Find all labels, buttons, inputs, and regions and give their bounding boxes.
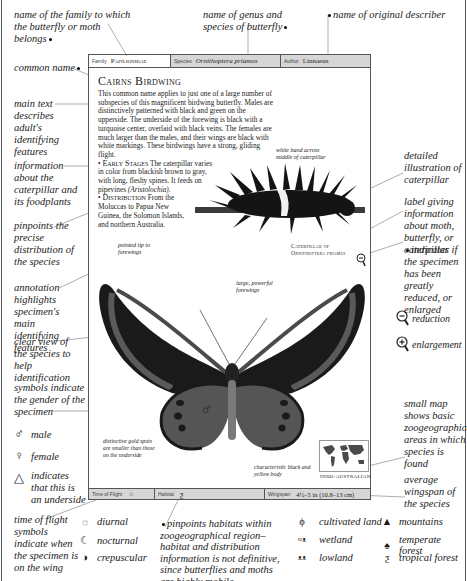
legend-wetland-label: wetland xyxy=(319,534,352,545)
moon-icon: ☾ xyxy=(78,534,92,546)
annotation-small-map-text: small map shows basic zoogeographical ar… xyxy=(404,398,467,469)
header-strip: Family Papilionidae Species Ornithoptera… xyxy=(88,54,371,68)
foodplant-name: (Aristolochia). xyxy=(128,185,171,194)
author-label: Author xyxy=(284,58,299,64)
main-body-text: This common name applies to just one of … xyxy=(98,89,273,159)
bullet-dot xyxy=(77,67,80,70)
early-stages-label: Early Stages xyxy=(102,159,148,168)
legend-mountains-label: mountains xyxy=(399,516,443,527)
male-icon: ♂ xyxy=(12,426,26,442)
bullet-dot xyxy=(406,249,409,252)
sun-icon: ☼ xyxy=(78,516,92,527)
sun-icon: ☼ xyxy=(128,490,134,498)
legend-male-label: male xyxy=(31,429,51,440)
map-region-label: Indo-Australian xyxy=(320,474,371,479)
annotation-distribution: pinpoints the precise distribution of th… xyxy=(14,220,82,268)
species-value: Ornithoptera priamus xyxy=(196,57,258,65)
legend-crepuscular-label: crepuscular xyxy=(97,552,147,563)
author-cell: Author Linnaeus xyxy=(281,55,370,67)
reduction-icon xyxy=(356,253,366,267)
annotation-detailed-illustration-text: detailed illustration of caterpillar xyxy=(404,150,461,185)
annotation-black-yellow-body: characteristic black and yellow body xyxy=(254,464,314,478)
legend-nocturnal-label: nocturnal xyxy=(97,535,138,546)
annotation-gold-spots: distinctive gold spots are smaller than … xyxy=(103,438,155,458)
enlargement-icon xyxy=(396,336,410,352)
wingspan-label: Wingspan xyxy=(268,491,290,497)
annotation-time-of-flight-text: time of flight symbols indicate when the… xyxy=(14,514,78,573)
family-value: Papilionidae xyxy=(111,57,147,65)
gender-symbol-male: ♂ xyxy=(202,404,211,415)
legend-wetland: ≈ᴥ wetland xyxy=(290,534,352,545)
annotation-scale-indicator-text: indicates if the specimen has been great… xyxy=(404,244,459,315)
legend-diurnal-label: diurnal xyxy=(97,516,128,527)
annotation-family: name of the family to which the butterfl… xyxy=(14,9,134,45)
legend-tropical-forest-label: tropical forest xyxy=(399,552,458,563)
lowland-icon: ᴥᴥ xyxy=(290,553,314,562)
legend-nocturnal: ☾ nocturnal xyxy=(78,534,138,546)
annotation-wingspan-text: average wingspan of the species xyxy=(404,474,455,509)
species-label: Species xyxy=(174,58,192,64)
footer-strip: Time of Flight ☼ Habitat ƺ Wingspan 4½–5… xyxy=(88,488,371,500)
annotation-describer-text: name of original describer xyxy=(333,9,445,20)
annotation-main-text: main text describes adult's identifying … xyxy=(14,98,74,158)
annotation-family-text: name of the family to which the butterfl… xyxy=(14,9,130,44)
annotation-scale-indicator: indicates if the specimen has been great… xyxy=(404,244,466,316)
legend-mountains: ▲ mountains xyxy=(380,516,443,527)
annotation-habitat-text: pinpoints habitats within zoogeographica… xyxy=(160,518,280,581)
habitat-label: Habitat xyxy=(158,491,174,497)
mountains-icon: ▲ xyxy=(380,516,394,527)
family-label: Family xyxy=(92,58,107,64)
wingspan-value: 4½–5 in (10.8–13 cm) xyxy=(296,491,354,498)
annotation-pointed-tip: pointed tip to forewings xyxy=(118,242,168,256)
world-map-icon xyxy=(320,441,368,471)
caterpillar-caption: Caterpillar of Ornithoptera priamus xyxy=(291,243,346,257)
caterpillar-caption-line2: Ornithoptera priamus xyxy=(291,250,346,257)
species-cell: Species Ornithoptera priamus xyxy=(171,55,281,67)
common-name-title: Cairns Birdwing xyxy=(98,74,181,89)
zoogeographic-map xyxy=(319,440,369,472)
time-of-flight-label: Time of Flight xyxy=(92,491,122,497)
distribution-block: • Distribution From the Moluccas to Papu… xyxy=(98,194,192,229)
reduction-icon xyxy=(396,310,410,326)
legend-cultivated-land-label: cultivated land xyxy=(319,516,382,527)
legend-enlargement: enlargement xyxy=(396,336,462,352)
legend-female-label: female xyxy=(31,451,59,462)
bullet-dot xyxy=(162,523,165,526)
triangle-icon: △ xyxy=(12,470,26,486)
wingspan-cell: Wingspan 4½–5 in (10.8–13 cm) xyxy=(265,489,370,499)
legend-lowland-label: lowland xyxy=(319,552,353,563)
annotation-gender: symbols indicate the gender of the speci… xyxy=(14,382,88,418)
legend-underside: △ indicates that this is an underside xyxy=(12,470,87,506)
habitat-cell: Habitat ƺ xyxy=(155,489,265,499)
annotation-clear-view-text: clear view of the species to help identi… xyxy=(14,336,71,383)
half-circle-icon: ◑ xyxy=(78,552,92,563)
legend-male: ♂ male xyxy=(12,426,51,442)
legend-crepuscular: ◑ crepuscular xyxy=(78,552,147,563)
wetland-icon: ≈ᴥ xyxy=(290,535,314,544)
annotation-common-name-text: common name xyxy=(14,62,75,73)
legend-cultivated-land: ϕ cultivated land xyxy=(290,516,382,527)
annotation-genus-species: name of genus and species of butterfly xyxy=(203,9,303,33)
annotation-clear-view: clear view of the species to help identi… xyxy=(14,336,82,384)
legend-reduction: reduction xyxy=(396,310,450,326)
female-icon: ♀ xyxy=(12,448,26,464)
legend-diurnal: ☼ diurnal xyxy=(78,516,128,527)
cultivated-land-icon: ϕ xyxy=(290,516,314,527)
temperate-forest-icon: ♠ xyxy=(380,540,394,551)
annotation-describer: name of original describer xyxy=(326,9,466,21)
annotation-caterpillar-info-text: information about the caterpillar and it… xyxy=(14,160,77,207)
legend-reduction-label: reduction xyxy=(412,313,450,324)
annotation-time-of-flight: time of flight symbols indicate when the… xyxy=(14,514,80,574)
distribution-label: Distribution xyxy=(102,193,145,202)
family-cell: Family Papilionidae xyxy=(89,55,171,67)
tropical-forest-icon: ƺ xyxy=(180,490,184,499)
legend-enlargement-label: enlargement xyxy=(412,339,462,350)
annotation-main-text-text: main text describes adult's identifying … xyxy=(14,98,59,157)
annotation-detailed-illustration: detailed illustration of caterpillar xyxy=(404,150,466,186)
annotation-wingspan: average wingspan of the species xyxy=(404,474,466,510)
annotation-distribution-text: pinpoints the precise distribution of th… xyxy=(14,220,74,267)
left-frame-border xyxy=(1,0,2,581)
tropical-forest-icon: ƺ xyxy=(380,552,394,563)
annotation-white-band: white band across middle of caterpillar xyxy=(276,147,328,161)
annotation-genus-text: name of genus and species of butterfly xyxy=(203,9,282,32)
